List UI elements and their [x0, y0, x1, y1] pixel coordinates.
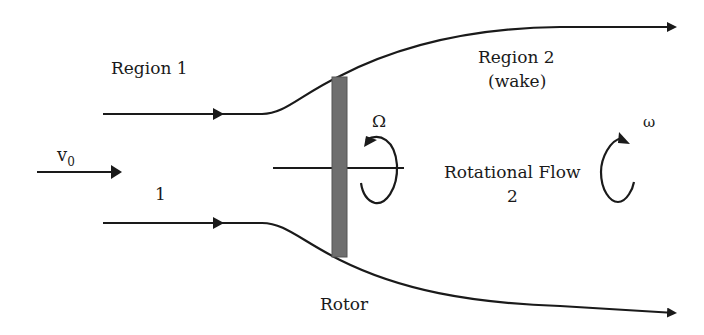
- wake-label: (wake): [488, 71, 546, 91]
- omega-lower-label: ω: [643, 113, 655, 131]
- rotor-disc: [332, 77, 347, 257]
- station-2-label: 2: [507, 186, 518, 206]
- region-2-label: Region 2: [478, 47, 555, 67]
- rotational-flow-label: Rotational Flow: [444, 162, 581, 182]
- lower-streamline: [103, 217, 675, 313]
- omega-upper-label: Ω: [372, 111, 386, 131]
- region-1-label: Region 1: [111, 58, 188, 78]
- station-1-label: 1: [155, 184, 166, 204]
- wake-rotation-arrow-icon: [601, 132, 634, 202]
- rotor-label: Rotor: [320, 294, 369, 314]
- v0-subscript: 0: [67, 155, 75, 169]
- upper-streamline: [103, 27, 675, 120]
- free-stream-arrow: [37, 165, 122, 179]
- v0-label: v0: [56, 144, 75, 169]
- upper-flow-arrowhead-icon: [213, 108, 224, 120]
- rotor-wake-diagram: Region 1 Region 2 (wake) v0 1 Ω ω Rotati…: [0, 0, 704, 335]
- rotor-rotation-arrow-icon: [361, 136, 397, 203]
- free-stream-arrowhead-icon: [111, 165, 122, 179]
- lower-flow-arrowhead-icon: [213, 217, 224, 229]
